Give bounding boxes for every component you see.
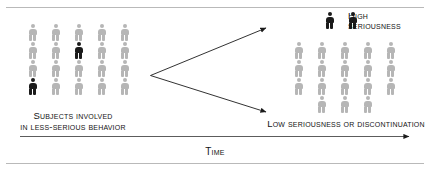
label-subjects-involved: Subjects involved in less-serious behavi… [0,110,146,132]
pictogram-cell [310,96,333,114]
pictogram-row [287,60,402,78]
person-icon-highlighted [74,42,83,59]
pictogram-cell [333,60,356,78]
pictogram-cell [21,42,44,60]
pictogram-cell [113,42,136,60]
pictogram-cell [90,60,113,78]
pictogram-cell [44,42,67,60]
person-icon [74,24,83,41]
pictogram-cell [90,24,113,42]
pictogram-cell [67,24,90,42]
pictogram-row [287,96,402,114]
person-icon [28,60,37,77]
pictogram-cell [113,24,136,42]
branch-down-arrow [151,76,267,113]
person-icon-highlighted [28,78,37,95]
person-icon [340,42,349,59]
person-icon [363,78,372,95]
pictogram-row [287,78,402,96]
pictogram-cell [21,78,44,96]
label-time-text: Time [0,146,430,157]
person-icon [317,78,326,95]
person-icon-highlighted [325,12,334,29]
person-icon [51,78,60,95]
pictogram-cell [113,78,136,96]
person-icon [363,42,372,59]
person-icon [97,42,106,59]
pictogram-row [287,42,402,60]
pictogram-cell [356,42,379,60]
pictogram-cell [44,24,67,42]
person-icon [363,96,372,113]
person-icon [294,60,303,77]
pictogram-cell [90,42,113,60]
person-icon [386,42,395,59]
pictogram-cell [287,42,310,60]
pictogram-cell [44,60,67,78]
pictogram-cell [318,12,341,30]
person-icon [386,78,395,95]
person-icon [386,60,395,77]
pictogram-cell [287,60,310,78]
person-icon [340,96,349,113]
pictogram-cell [379,42,402,60]
label-subjects-line2: in less-serious behavior [0,121,146,132]
pictogram-cell [67,42,90,60]
pictogram-cell [333,96,356,114]
label-time-axis: Time [0,146,430,157]
pictogram-cell [287,78,310,96]
branch-up-arrow [151,28,267,76]
person-icon [74,78,83,95]
person-icon [340,78,349,95]
person-icon [340,60,349,77]
pictogram-cell [90,78,113,96]
pictogram-row [21,42,136,60]
pictogram-group-subjects [21,24,136,96]
pictogram-cell [333,78,356,96]
label-subjects-line1: Subjects involved [0,110,146,121]
person-icon [97,60,106,77]
pictogram-row [21,78,136,96]
person-icon [97,24,106,41]
person-icon [28,42,37,59]
label-high-line2: seriousness [348,21,428,31]
person-icon [28,24,37,41]
person-icon [120,78,129,95]
pictogram-cell [44,78,67,96]
label-high-seriousness: High seriousness [348,11,428,31]
pictogram-cell [356,96,379,114]
person-icon [363,60,372,77]
pictogram-cell [310,42,333,60]
pictogram-cell [310,60,333,78]
pictogram-cell [21,60,44,78]
pictogram-cell [379,78,402,96]
person-icon [120,42,129,59]
pictogram-cell [356,60,379,78]
pictogram-row [21,60,136,78]
pictogram-cell [67,60,90,78]
pictogram-cell [310,78,333,96]
diagram-canvas: Subjects involved in less-serious behavi… [0,0,430,172]
label-low-text: Low seriousness or discontinuation [262,118,430,129]
person-icon [97,78,106,95]
person-icon [51,60,60,77]
person-icon [317,42,326,59]
person-icon [317,96,326,113]
pictogram-row [21,24,136,42]
person-icon [51,42,60,59]
pictogram-cell [356,78,379,96]
pictogram-cell [113,60,136,78]
person-icon [294,78,303,95]
person-icon [51,24,60,41]
person-icon [74,60,83,77]
pictogram-cell [67,78,90,96]
pictogram-group-low-seriousness [287,42,402,114]
person-icon [120,24,129,41]
label-low-seriousness: Low seriousness or discontinuation [262,118,430,129]
pictogram-cell [379,60,402,78]
pictogram-cell [333,42,356,60]
person-icon [294,42,303,59]
person-icon [317,60,326,77]
person-icon [120,60,129,77]
pictogram-cell [21,24,44,42]
